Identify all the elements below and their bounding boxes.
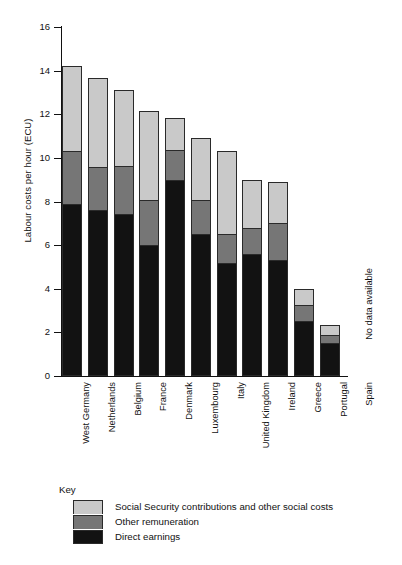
x-label-portugal: Portugal (334, 382, 354, 417)
bar-segment-other-remuneration (114, 166, 134, 214)
y-tick-4 (54, 289, 61, 290)
bar-segment-social-security-contributions-and-other-social-costs (114, 90, 134, 165)
bar-ireland[interactable] (268, 182, 288, 376)
x-label-united-kingdom: United Kingdom (256, 382, 276, 448)
bar-segment-direct-earnings (139, 245, 159, 376)
bar-segment-other-remuneration (191, 200, 211, 234)
bar-segment-social-security-contributions-and-other-social-costs (191, 138, 211, 200)
x-label-belgium: Belgium (128, 382, 148, 416)
bar-denmark[interactable] (165, 118, 185, 376)
legend-item: Direct earnings (59, 529, 389, 544)
legend-swatch-direct-earnings (73, 530, 103, 544)
bar-segment-other-remuneration (165, 150, 185, 179)
legend: Key Social Security contributions and ot… (59, 484, 389, 544)
y-tick-2 (54, 332, 61, 333)
x-label-italy: Italy (231, 382, 251, 399)
y-tick-label-0: 0 (28, 371, 50, 381)
bar-segment-social-security-contributions-and-other-social-costs (294, 289, 314, 305)
bar-netherlands[interactable] (88, 78, 108, 376)
bar-west-germany[interactable] (62, 66, 82, 376)
legend-title: Key (59, 484, 389, 495)
legend-label: Social Security contributions and other … (115, 501, 333, 512)
bar-segment-other-remuneration (139, 200, 159, 245)
x-label-west-germany: West Germany (76, 382, 96, 444)
bar-segment-direct-earnings (165, 180, 185, 376)
bar-segment-direct-earnings (217, 263, 237, 376)
bar-segment-direct-earnings (191, 234, 211, 376)
y-tick-12 (54, 114, 61, 115)
legend-item: Other remuneration (59, 514, 389, 529)
bar-greece[interactable] (294, 289, 314, 376)
bar-segment-social-security-contributions-and-other-social-costs (242, 180, 262, 228)
y-tick-label-4: 4 (28, 284, 50, 294)
legend-item: Social Security contributions and other … (59, 499, 389, 514)
bar-luxembourg[interactable] (191, 138, 211, 376)
y-tick-8 (54, 202, 61, 203)
annotation-no-data-available: No data available (359, 268, 379, 340)
legend-swatch-social-security (73, 500, 103, 514)
bar-segment-direct-earnings (88, 210, 108, 376)
bar-segment-other-remuneration (88, 167, 108, 211)
y-tick-0 (54, 376, 61, 377)
bar-segment-direct-earnings (268, 260, 288, 376)
x-label-denmark: Denmark (179, 382, 199, 420)
bar-united-kingdom[interactable] (242, 180, 262, 376)
y-tick-label-16: 16 (28, 22, 50, 32)
bar-segment-other-remuneration (242, 228, 262, 254)
y-tick-label-2: 2 (28, 327, 50, 337)
y-tick-14 (54, 71, 61, 72)
bar-segment-other-remuneration (62, 151, 82, 203)
bar-segment-social-security-contributions-and-other-social-costs (320, 325, 340, 335)
y-tick-10 (54, 158, 61, 159)
y-tick-label-12: 12 (28, 109, 50, 119)
x-label-netherlands: Netherlands (102, 382, 122, 432)
bar-portugal[interactable] (320, 325, 340, 376)
legend-swatch-other-remuneration (73, 515, 103, 529)
chart-container: Labour costs per hour (ECU) 024681012141… (0, 0, 402, 565)
y-tick-label-10: 10 (28, 153, 50, 163)
bar-segment-direct-earnings (62, 204, 82, 376)
bar-segment-other-remuneration (320, 335, 340, 344)
x-label-ireland: Ireland (282, 382, 302, 410)
bar-italy[interactable] (217, 151, 237, 376)
bar-segment-social-security-contributions-and-other-social-costs (268, 182, 288, 223)
bar-segment-direct-earnings (294, 321, 314, 376)
bar-segment-other-remuneration (217, 234, 237, 262)
bar-segment-social-security-contributions-and-other-social-costs (165, 118, 185, 151)
x-axis-line (61, 376, 348, 377)
legend-label: Direct earnings (115, 531, 180, 542)
bar-segment-direct-earnings (320, 343, 340, 376)
bar-segment-social-security-contributions-and-other-social-costs (217, 151, 237, 234)
legend-items: Social Security contributions and other … (59, 499, 389, 544)
bar-segment-social-security-contributions-and-other-social-costs (62, 66, 82, 151)
x-label-luxembourg: Luxembourg (205, 382, 225, 434)
bar-france[interactable] (139, 111, 159, 376)
legend-label: Other remuneration (115, 516, 199, 527)
bar-segment-direct-earnings (114, 214, 134, 377)
bar-segment-direct-earnings (242, 254, 262, 376)
bar-segment-social-security-contributions-and-other-social-costs (88, 78, 108, 166)
x-label-greece: Greece (308, 382, 328, 413)
x-label-france: France (153, 382, 173, 411)
y-tick-label-14: 14 (28, 66, 50, 76)
plot-area (62, 27, 347, 376)
y-tick-label-6: 6 (28, 240, 50, 250)
y-tick-6 (54, 245, 61, 246)
y-tick-16 (54, 27, 61, 28)
y-tick-label-8: 8 (28, 197, 50, 207)
bar-segment-social-security-contributions-and-other-social-costs (139, 111, 159, 200)
bar-belgium[interactable] (114, 90, 134, 376)
x-label-spain: Spain (359, 382, 379, 406)
bar-segment-other-remuneration (268, 223, 288, 260)
bar-segment-other-remuneration (294, 305, 314, 321)
